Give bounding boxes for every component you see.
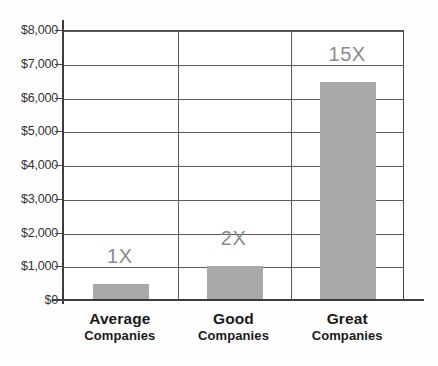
- y-axis-line: [62, 20, 64, 304]
- y-axis-label-7000: $7,000: [0, 57, 58, 71]
- data-label-0: 1X: [107, 245, 132, 268]
- x-axis-line: [52, 299, 424, 301]
- data-label-2: 15X: [329, 43, 366, 66]
- y-axis-label-0: $0: [0, 293, 58, 307]
- bar-1: [207, 266, 263, 301]
- bar-2: [320, 82, 376, 301]
- category-label-secondary: Companies: [84, 328, 155, 344]
- y-axis-label-3000: $3,000: [0, 192, 58, 206]
- y-axis-label-4000: $4,000: [0, 158, 58, 172]
- x-axis-category-0: AverageCompanies: [84, 310, 155, 344]
- x-axis-category-2: GreatCompanies: [312, 310, 383, 344]
- category-divider-2: [291, 31, 292, 299]
- category-label-primary: Great: [312, 310, 383, 328]
- gridline-8000: [64, 31, 403, 32]
- category-label-primary: Good: [198, 310, 269, 328]
- y-axis-label-2000: $2,000: [0, 226, 58, 240]
- category-label-secondary: Companies: [198, 328, 269, 344]
- category-label-primary: Average: [84, 310, 155, 328]
- y-axis-label-1000: $1,000: [0, 259, 58, 273]
- data-label-1: 2X: [221, 227, 246, 250]
- category-divider-1: [178, 31, 179, 299]
- category-label-secondary: Companies: [312, 328, 383, 344]
- y-axis-label-6000: $6,000: [0, 91, 58, 105]
- bar-chart: $0$1,000$2,000$3,000$4,000$5,000$6,000$7…: [0, 0, 438, 366]
- x-axis-category-1: GoodCompanies: [198, 310, 269, 344]
- y-axis-label-8000: $8,000: [0, 23, 58, 37]
- y-axis-label-5000: $5,000: [0, 124, 58, 138]
